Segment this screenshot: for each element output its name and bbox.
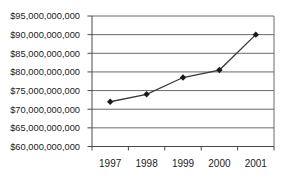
line-chart: $95,000,000,000$90,000,000,000$85,000,00…: [0, 0, 288, 182]
x-tick-label: 2000: [208, 158, 231, 169]
y-tick-label: $60,000,000,000: [10, 142, 80, 152]
y-tick-label: $95,000,000,000: [10, 11, 80, 21]
x-tick-label: 1998: [135, 158, 158, 169]
line-chart-figure: $95,000,000,000$90,000,000,000$85,000,00…: [0, 0, 288, 182]
y-tick-label: $80,000,000,000: [10, 67, 80, 77]
y-tick-label: $85,000,000,000: [10, 49, 80, 59]
y-tick-label: $65,000,000,000: [10, 123, 80, 133]
data-line: [110, 35, 256, 102]
data-point-marker: [107, 99, 113, 105]
y-tick-label: $75,000,000,000: [10, 86, 80, 96]
data-point-marker: [180, 74, 186, 80]
x-tick-label: 2001: [245, 158, 268, 169]
y-tick-label: $70,000,000,000: [10, 105, 80, 115]
y-tick-label: $90,000,000,000: [10, 30, 80, 40]
x-tick-label: 1999: [172, 158, 195, 169]
x-tick-label: 1997: [99, 158, 122, 169]
data-point-marker: [143, 91, 149, 97]
